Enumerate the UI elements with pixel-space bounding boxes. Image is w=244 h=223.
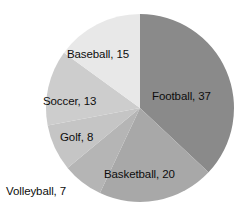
slice-label-football: Football, 37 — [152, 91, 211, 103]
slice-label-volleyball: Volleyball, 7 — [6, 186, 66, 198]
slice-label-golf: Golf, 8 — [60, 132, 93, 144]
slice-label-basketball: Basketball, 20 — [104, 169, 175, 181]
slice-label-baseball: Baseball, 15 — [67, 49, 129, 61]
slice-label-soccer: Soccer, 13 — [43, 96, 96, 108]
pie-chart: Football, 37 Basketball, 20 Volleyball, … — [0, 0, 244, 223]
